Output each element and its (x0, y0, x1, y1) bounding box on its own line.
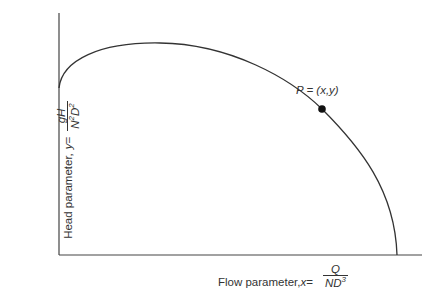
x-denominator: ND3 (323, 275, 348, 289)
y-numerator: gH (55, 107, 67, 126)
x-axis-prefix: Flow parameter, (218, 276, 300, 288)
y-axis-prefix: Head parameter, (62, 153, 74, 239)
x-eq: = (306, 276, 313, 288)
point-label: P = (x,y) (296, 84, 339, 96)
x-numerator: Q (329, 263, 342, 275)
y-eq: = (62, 137, 74, 144)
y-fraction: gH N2D2 (55, 101, 81, 131)
x-fraction: Q ND3 (323, 263, 348, 289)
y-denominator: N2D2 (67, 101, 81, 131)
y-axis-label: Head parameter, y = gH N2D2 (48, 50, 88, 290)
x-axis-label: Flow parameter, x = Q ND3 (218, 263, 348, 289)
y-var: y (62, 143, 74, 149)
operating-point-marker (318, 105, 326, 113)
head-flow-curve (59, 43, 397, 255)
